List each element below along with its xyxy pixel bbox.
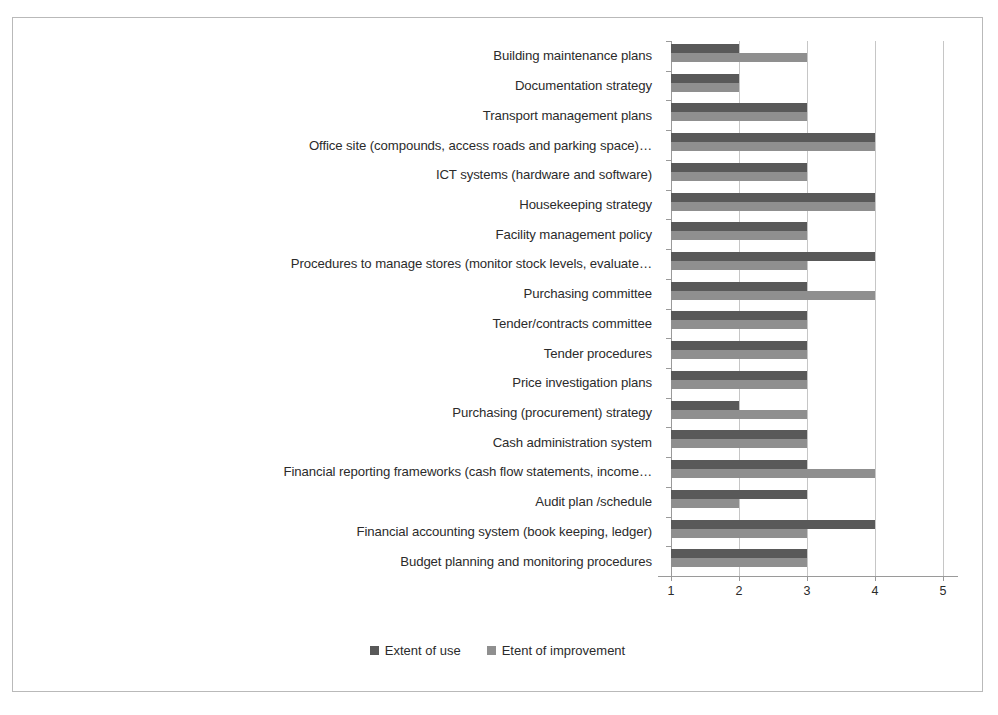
bar-row [671, 457, 958, 487]
bar-extent-of-improvement [671, 53, 807, 62]
category-axis-labels: Building maintenance plansDocumentation … [33, 41, 658, 576]
bar-extent-of-improvement [671, 499, 739, 508]
bar-row [671, 160, 958, 190]
category-label: Procedures to manage stores (monitor sto… [33, 249, 658, 279]
bar-extent-of-improvement [671, 142, 875, 151]
value-axis [658, 576, 958, 577]
bar-extent-of-use [671, 222, 807, 231]
bar-extent-of-use [671, 341, 807, 350]
bar-extent-of-use [671, 44, 739, 53]
bar-row [671, 100, 958, 130]
bar-extent-of-improvement [671, 529, 807, 538]
category-label: Financial accounting system (book keepin… [33, 517, 658, 547]
category-label: Facility management policy [33, 219, 658, 249]
value-tick-label: 2 [736, 584, 743, 598]
bar-extent-of-use [671, 520, 875, 529]
bar-row [671, 219, 958, 249]
bar-rows [671, 41, 958, 576]
value-tick-label: 5 [940, 584, 947, 598]
bar-row [671, 546, 958, 576]
bar-extent-of-improvement [671, 261, 807, 270]
bar-extent-of-use [671, 371, 807, 380]
value-tick-label: 3 [804, 584, 811, 598]
bar-extent-of-improvement [671, 172, 807, 181]
legend-swatch-icon [370, 646, 379, 655]
category-label: Office site (compounds, access roads and… [33, 130, 658, 160]
value-tick-label: 1 [668, 584, 675, 598]
category-label: Purchasing (procurement) strategy [33, 398, 658, 428]
chart-figure: Building maintenance plansDocumentation … [12, 17, 983, 692]
bar-extent-of-improvement [671, 350, 807, 359]
bar-row [671, 427, 958, 457]
value-tick [739, 576, 740, 581]
bar-extent-of-improvement [671, 112, 807, 121]
bar-row [671, 190, 958, 220]
legend-label: Extent of use [385, 643, 461, 658]
bar-extent-of-use [671, 460, 807, 469]
bar-extent-of-improvement [671, 469, 875, 478]
bar-row [671, 368, 958, 398]
bar-extent-of-improvement [671, 291, 875, 300]
bar-extent-of-use [671, 311, 807, 320]
bar-extent-of-use [671, 282, 807, 291]
category-label: Cash administration system [33, 427, 658, 457]
plot-area [658, 41, 958, 576]
bar-extent-of-improvement [671, 202, 875, 211]
category-label: ICT systems (hardware and software) [33, 160, 658, 190]
bar-row [671, 398, 958, 428]
bar-row [671, 308, 958, 338]
category-label: Financial reporting frameworks (cash flo… [33, 457, 658, 487]
bar-row [671, 249, 958, 279]
category-label: Price investigation plans [33, 368, 658, 398]
bar-row [671, 517, 958, 547]
bar-extent-of-use [671, 103, 807, 112]
value-tick [875, 576, 876, 581]
value-tick [943, 576, 944, 581]
bar-extent-of-improvement [671, 231, 807, 240]
bar-extent-of-use [671, 163, 807, 172]
bar-extent-of-improvement [671, 380, 807, 389]
bar-row [671, 338, 958, 368]
category-label: Budget planning and monitoring procedure… [33, 546, 658, 576]
bar-extent-of-use [671, 193, 875, 202]
bar-extent-of-use [671, 430, 807, 439]
legend-item[interactable]: Etent of improvement [487, 643, 626, 658]
bar-extent-of-improvement [671, 320, 807, 329]
bar-row [671, 130, 958, 160]
bar-row [671, 71, 958, 101]
bar-row [671, 487, 958, 517]
category-label: Tender procedures [33, 338, 658, 368]
bar-extent-of-use [671, 133, 875, 142]
value-tick [671, 576, 672, 581]
bar-extent-of-improvement [671, 83, 739, 92]
bar-extent-of-use [671, 490, 807, 499]
bar-extent-of-improvement [671, 439, 807, 448]
bar-row [671, 41, 958, 71]
bar-extent-of-improvement [671, 410, 807, 419]
bar-extent-of-use [671, 401, 739, 410]
legend-label: Etent of improvement [502, 643, 626, 658]
bar-row [671, 279, 958, 309]
category-label: Purchasing committee [33, 279, 658, 309]
bar-extent-of-use [671, 549, 807, 558]
category-label: Audit plan /schedule [33, 487, 658, 517]
bar-extent-of-use [671, 252, 875, 261]
category-label: Building maintenance plans [33, 41, 658, 71]
legend-item[interactable]: Extent of use [370, 643, 461, 658]
category-label: Transport management plans [33, 100, 658, 130]
category-label: Tender/contracts committee [33, 308, 658, 338]
legend-swatch-icon [487, 646, 496, 655]
value-tick [807, 576, 808, 581]
chart-legend: Extent of useEtent of improvement [13, 643, 982, 658]
category-label: Documentation strategy [33, 71, 658, 101]
bar-extent-of-use [671, 74, 739, 83]
category-label: Housekeeping strategy [33, 190, 658, 220]
bar-extent-of-improvement [671, 558, 807, 567]
value-tick-label: 4 [872, 584, 879, 598]
